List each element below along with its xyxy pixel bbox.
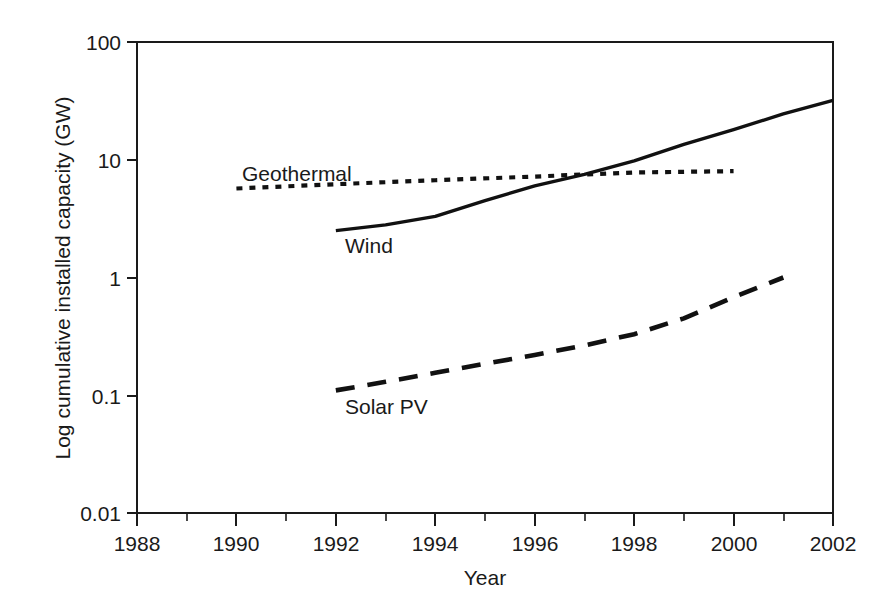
y-tick-label-1: 1	[109, 267, 121, 290]
series-annotation-geothermal: Geothermal	[242, 162, 352, 185]
y-axis-title: Log cumulative installed capacity (GW)	[51, 97, 74, 460]
series-line-wind	[336, 100, 833, 230]
line-chart: 100 10 1 0.1 0.01 Log cumulative install…	[0, 0, 876, 603]
x-tick-label-2000: 2000	[711, 532, 758, 555]
y-tick-label-100: 100	[86, 31, 121, 54]
chart-page: 100 10 1 0.1 0.01 Log cumulative install…	[0, 0, 876, 603]
series-line-solar-pv	[336, 278, 783, 391]
x-tick-label-1992: 1992	[313, 532, 360, 555]
x-axis-title: Year	[464, 566, 506, 589]
y-tick-label-0.1: 0.1	[92, 385, 121, 408]
x-tick-label-1996: 1996	[512, 532, 559, 555]
x-tick-label-2002: 2002	[810, 532, 857, 555]
series-annotation-solar-pv: Solar PV	[345, 395, 428, 418]
x-tick-label-1994: 1994	[412, 532, 459, 555]
series-annotation-wind: Wind	[345, 234, 393, 257]
y-tick-label-10: 10	[98, 149, 121, 172]
x-tick-label-1990: 1990	[213, 532, 260, 555]
x-tick-label-1988: 1988	[114, 532, 161, 555]
y-tick-label-0.01: 0.01	[80, 502, 121, 525]
x-tick-label-1998: 1998	[611, 532, 658, 555]
